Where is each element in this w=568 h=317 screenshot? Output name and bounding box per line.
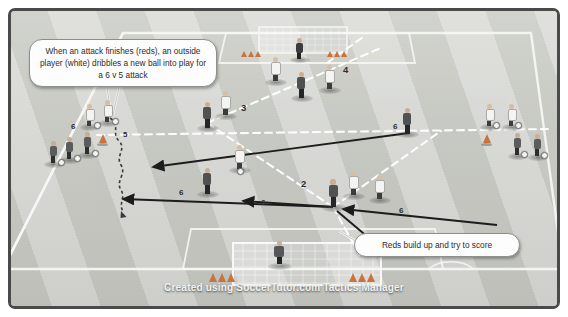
label-6-upper: 6 bbox=[393, 123, 397, 131]
pass-line-hub-to-left bbox=[207, 123, 333, 207]
callout-leaders bbox=[107, 87, 359, 243]
run-arrow-right-in bbox=[343, 209, 497, 225]
screenshot-frame: 5 3 4 2 6 6 6 6 6 When an attack finishe… bbox=[0, 0, 568, 317]
tactics-diagram-image: 5 3 4 2 6 6 6 6 6 When an attack finishe… bbox=[8, 8, 560, 309]
callout-dribble-instruction: When an attack finishes (reds), an outsi… bbox=[29, 39, 217, 87]
cone-shadow-right bbox=[481, 143, 492, 146]
run-arrow-right-to-left bbox=[153, 133, 409, 167]
label-6-center: 6 bbox=[261, 199, 265, 207]
label-5-dribble: 5 bbox=[123, 131, 127, 139]
label-6-right: 6 bbox=[399, 207, 403, 215]
cone-shadow-left bbox=[97, 143, 108, 146]
watermark-text: Created using SoccerTutor.com Tactics Ma… bbox=[11, 282, 557, 293]
label-6-left-a: 6 bbox=[179, 189, 183, 197]
cone-left bbox=[99, 134, 107, 143]
callout-score-instruction: Reds build up and try to score bbox=[354, 233, 520, 257]
label-2-hub: 2 bbox=[301, 179, 306, 189]
goal-top bbox=[259, 27, 347, 53]
label-4-pass: 4 bbox=[343, 65, 348, 75]
label-6-left-b: 6 bbox=[71, 123, 75, 131]
cone-right bbox=[483, 134, 491, 143]
label-3-pass: 3 bbox=[241, 103, 246, 113]
